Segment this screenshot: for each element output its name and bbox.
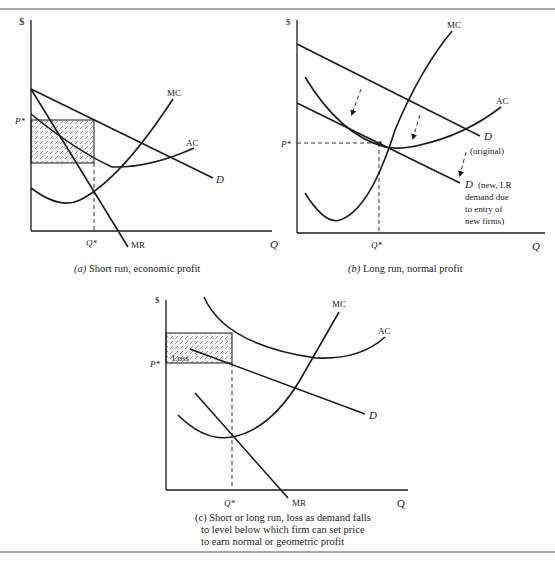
demand-new-label: D <box>464 178 473 190</box>
ac-label: AC <box>496 96 509 106</box>
x-axis-label: Q <box>397 497 405 509</box>
demand-original-curve <box>297 44 480 136</box>
mc-label: MC <box>332 299 346 309</box>
mc-label: MC <box>447 20 461 30</box>
demand-new-note-3: to entry of <box>465 204 503 214</box>
ac-label: AC <box>186 138 199 148</box>
mc-label: MC <box>167 88 181 98</box>
caption-b: (b) Long run, normal profit <box>348 263 463 275</box>
caption-a: (a) Short run, economic profit <box>74 263 200 275</box>
q-star-label: Q* <box>224 498 235 508</box>
panel-c: $ Q P* Loss Q* MC AC D MR (c) Short or l… <box>149 295 408 547</box>
p-star-label: P* <box>14 116 25 126</box>
p-star-label: P* <box>280 139 291 149</box>
ac-label: AC <box>378 326 391 336</box>
caption-c-line-2: to level below which firm can set price <box>201 524 365 535</box>
demand-curve <box>190 349 365 414</box>
shift-arrow <box>460 152 466 175</box>
tangency-point <box>378 141 382 145</box>
loss-label: Loss <box>172 353 190 363</box>
panel-a: $ Q P* Q* MC AC D MR (a) Short run, econ… <box>14 15 278 275</box>
demand-new-note-2: demand due <box>465 192 509 202</box>
demand-new-note-4: new firms) <box>465 216 504 226</box>
y-axis-label: $ <box>19 15 25 27</box>
demand-original-label: D <box>483 130 492 142</box>
demand-new-note-1: (new, LR <box>478 180 511 190</box>
mr-curve <box>195 393 288 498</box>
demand-label: D <box>215 173 224 185</box>
demand-original-note: (original) <box>470 146 504 156</box>
y-axis-label: $ <box>286 17 291 27</box>
q-star-label: Q* <box>86 238 97 248</box>
x-axis-label: Q <box>270 238 278 250</box>
figure-canvas: $ Q P* Q* MC AC D MR (a) Short run, econ… <box>0 0 555 566</box>
q-star-label: Q* <box>371 240 382 250</box>
demand-label: D <box>368 409 377 421</box>
mr-label: MR <box>292 498 306 508</box>
shift-arrow <box>413 115 420 138</box>
p-star-label: P* <box>149 359 160 369</box>
caption-c-line-1: (c) Short or long run, loss as demand fa… <box>195 512 371 524</box>
x-axis-label: Q <box>532 240 540 252</box>
y-axis-label: $ <box>155 295 160 305</box>
panel-b: $ Q P* Q* MC AC D (original) D (new, LR … <box>280 17 545 275</box>
shift-arrow <box>352 89 361 114</box>
mr-label: MR <box>131 240 145 250</box>
caption-c-line-3: to earn normal or geometric profit <box>201 536 344 547</box>
